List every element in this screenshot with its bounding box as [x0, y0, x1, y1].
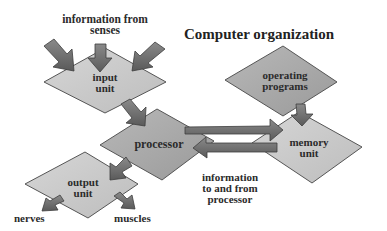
output-to-muscles-arrow: [114, 192, 135, 209]
output-unit-line2: unit: [52, 188, 114, 199]
input-to-processor-arrow: [121, 99, 146, 126]
node-processor: processor: [120, 139, 198, 150]
node-memory-unit: memory unit: [274, 137, 344, 159]
operating-programs-line2: programs: [248, 81, 322, 92]
info-line3: processor: [190, 194, 270, 205]
label-information-from-senses: information from senses: [40, 14, 170, 36]
diagram-title: Computer organization: [184, 26, 334, 43]
node-output-unit: output unit: [52, 177, 114, 199]
input-unit-line2: unit: [75, 83, 135, 94]
label-info-to-from-processor: information to and from processor: [190, 172, 270, 205]
node-operating-programs: operating programs: [248, 70, 322, 92]
senses-line2: senses: [40, 25, 170, 36]
label-muscles: muscles: [114, 213, 174, 224]
memory-unit-line2: unit: [274, 148, 344, 159]
senses-arrows: [44, 39, 165, 72]
label-nerves: nerves: [14, 213, 64, 224]
node-input-unit: input unit: [75, 72, 135, 94]
